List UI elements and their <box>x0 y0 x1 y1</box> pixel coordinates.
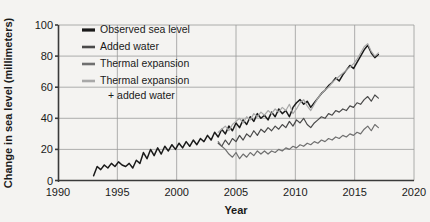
y-tick-label: 20 <box>41 143 53 155</box>
x-tick-label: 2000 <box>164 186 188 198</box>
y-tick-label: 60 <box>41 81 53 93</box>
x-tick-label: 2020 <box>402 186 426 198</box>
y-tick-label: 80 <box>41 50 53 62</box>
legend-label-4-line2: + added water <box>108 89 175 101</box>
x-tick-label: 2005 <box>224 186 248 198</box>
legend-label-3: Thermal expansion <box>100 57 189 69</box>
chart-canvas: 020406080100 199019952000200520102015202… <box>0 0 430 222</box>
y-tick-label: 40 <box>41 112 53 124</box>
y-tick-label: 100 <box>35 19 53 31</box>
x-tick-label: 1995 <box>105 186 129 198</box>
legend-label-1: Observed sea level <box>100 23 190 35</box>
x-tick-label: 2010 <box>283 186 307 198</box>
sea-level-line-chart: 020406080100 199019952000200520102015202… <box>0 0 430 222</box>
x-tick-label: 2015 <box>342 186 366 198</box>
x-tick-label: 1990 <box>46 186 70 198</box>
legend-label-2: Added water <box>100 40 159 52</box>
y-axis-title: Change in sea level (millimeters) <box>2 17 14 188</box>
legend-label-4: Thermal expansion <box>100 74 189 86</box>
x-axis-title: Year <box>224 204 248 216</box>
y-tick-label: 0 <box>47 175 53 187</box>
